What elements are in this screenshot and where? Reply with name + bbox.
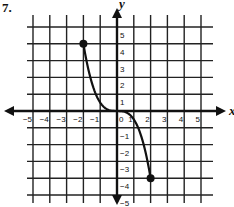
x-tick-label: 0 <box>119 115 124 124</box>
x-tick-label: −4 <box>40 115 50 124</box>
y-tick-label: 1 <box>120 98 125 107</box>
axes: xy <box>4 0 234 205</box>
closed-endpoint-dot <box>79 40 87 48</box>
x-tick-label: −1 <box>90 115 100 124</box>
y-tick-label: 3 <box>120 65 125 74</box>
y-tick-label: −2 <box>120 149 130 158</box>
x-tick-label: 3 <box>162 115 167 124</box>
y-tick-label: −1 <box>120 132 130 141</box>
y-tick-label: −5 <box>120 199 130 207</box>
x-tick-label: 2 <box>145 115 150 124</box>
x-tick-label: −5 <box>23 115 33 124</box>
function-graph: xy −5−4−3−2−101234554321−1−2−3−4−5 <box>0 0 234 207</box>
y-tick-label: 2 <box>120 81 125 90</box>
grid-lines <box>27 15 213 203</box>
closed-endpoint-dot <box>147 174 155 182</box>
x-axis-left-arrow-icon <box>4 106 14 116</box>
y-tick-label: −4 <box>120 182 130 191</box>
y-tick-label: 4 <box>120 48 125 57</box>
x-tick-label: 5 <box>196 115 201 124</box>
y-tick-label: 5 <box>120 31 125 40</box>
x-tick-label: −2 <box>73 115 83 124</box>
x-axis-label: x <box>228 103 234 118</box>
x-tick-label: −3 <box>56 115 66 124</box>
y-tick-label: −3 <box>120 165 130 174</box>
x-tick-label: 4 <box>179 115 184 124</box>
y-axis-label: y <box>117 0 125 11</box>
x-axis-right-arrow-icon <box>216 106 226 116</box>
